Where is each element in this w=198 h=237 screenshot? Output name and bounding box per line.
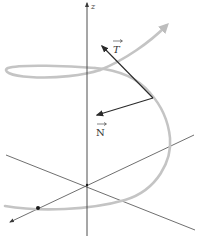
helix-curve-middle: [95, 68, 150, 93]
x-axis: [6, 155, 195, 230]
tangent-vector: [102, 46, 153, 98]
normal-label: N: [96, 123, 107, 139]
helix-loop: [6, 66, 100, 78]
helix-curve-lower: [5, 93, 170, 209]
z-axis-label: z: [90, 2, 96, 11]
svg-text:T: T: [113, 44, 121, 55]
svg-text:N: N: [96, 127, 105, 138]
origin-point: [86, 184, 88, 186]
start-point: [36, 206, 40, 210]
tangent-label: T: [113, 40, 123, 56]
normal-vector: [97, 98, 153, 115]
helix-curve-upper: [100, 26, 166, 70]
helix-diagram: z T N: [0, 0, 198, 237]
